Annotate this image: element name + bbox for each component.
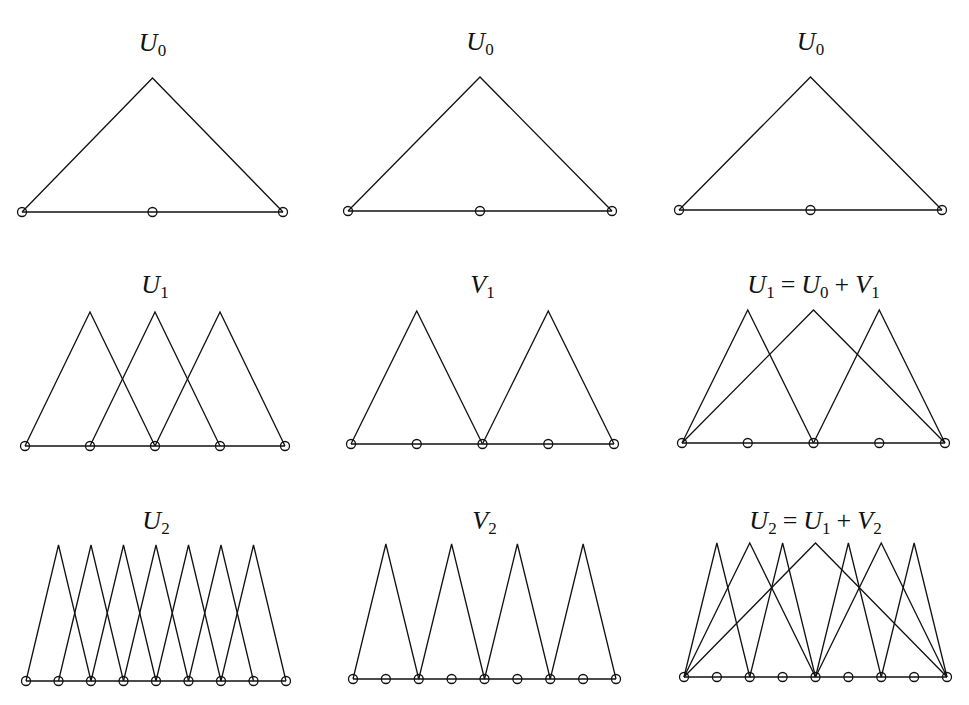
panel-v1 [347,311,619,449]
hat-function [550,544,616,679]
hierarchical-basis-figure: U0U0 U0U0 U0U0 U1U1 V1V1 U1 = U0 + V1U1=… [0,0,969,705]
panel-title-v1: V1V1 [470,272,494,301]
panel-u0-a [18,78,288,217]
hat-function [353,544,419,679]
panel-title-u1-sum: U1 = U0 + V1U1=U0+V1 [747,272,879,301]
panel-v2 [349,544,621,684]
hat-function [419,544,485,679]
hat-function [124,545,189,681]
panel-title-v2: V2V2 [472,508,496,537]
hat-function [485,544,551,679]
hat-function [684,543,947,677]
hat-function [679,77,942,210]
hat-function [483,311,615,444]
hat-function [25,312,155,446]
panel-u1 [21,312,290,451]
panel-u0-c [675,77,947,215]
hat-function [90,312,220,446]
hat-function [91,545,156,681]
panel-u1-sum [678,310,950,448]
hat-function [155,312,285,446]
hat-function [156,545,221,681]
panel-title-u2-sum: U2 = U1 + V2U2=U1+V2 [749,508,881,537]
panel-title-u0-b: U0U0 [466,29,493,58]
hat-function [351,311,483,444]
hat-function [22,78,283,212]
panel-u2-sum [680,543,952,682]
hat-function [348,77,612,211]
hat-function [59,545,124,681]
panel-title-u2: U2U2 [142,508,169,537]
hat-function [189,545,254,681]
panel-title-u1: U1U1 [141,272,168,301]
figure-graphics [0,0,969,705]
hat-function [682,310,945,443]
panel-title-u0-a: U0U0 [139,30,166,59]
panel-u2 [22,545,291,686]
hat-function [221,545,286,681]
panel-title-u0-c: U0U0 [797,29,824,58]
hat-function [26,545,91,681]
panel-u0-b [344,77,617,216]
